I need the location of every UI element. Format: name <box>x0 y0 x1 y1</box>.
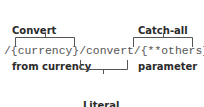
label-line: Literal <box>83 100 132 107</box>
route-template: /{currency}/convert/{**others} <box>4 45 204 58</box>
bracket-literal <box>81 60 128 74</box>
label-literal-segment: Literal segment <box>83 76 132 107</box>
